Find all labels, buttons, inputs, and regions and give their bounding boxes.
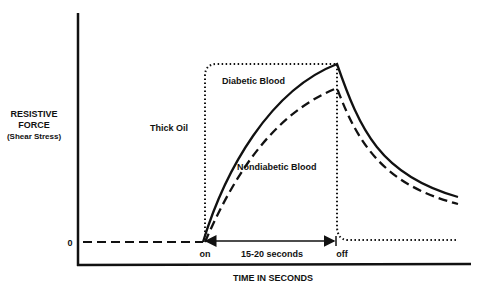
interval-label: 15-20 seconds [241,249,303,259]
y-axis-label-line2: FORCE [18,120,50,130]
zero-tick-label: 0 [67,238,72,248]
resistive-force-chart: RESISTIVE FORCE (Shear Stress) 0 on 15-2… [0,0,484,293]
y-axis-label-line1: RESISTIVE [10,109,57,119]
thick-oil-label: Thick Oil [150,123,188,133]
diabetic-blood-label: Diabetic Blood [222,76,285,86]
x-axis [77,264,471,265]
nondiabetic-blood-label: Nondiabetic Blood [237,162,317,172]
off-label: off [336,249,348,259]
on-label: on [200,249,211,259]
y-axis-label-line3: (Shear Stress) [7,132,62,141]
x-axis-label: TIME IN SECONDS [233,273,313,283]
